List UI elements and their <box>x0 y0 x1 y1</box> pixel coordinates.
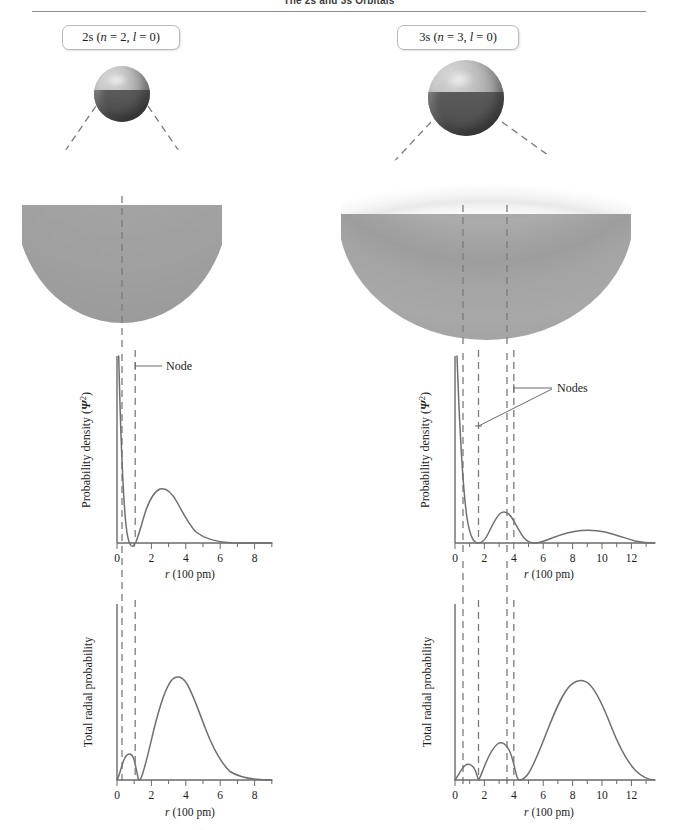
svg-text:8: 8 <box>570 789 576 801</box>
ylabel-radial-3s: Total radial probability <box>420 637 434 747</box>
plot-density-3s: Nodes 0 2 4 6 8 10 12 r (100 pm) Probabi… <box>389 350 669 580</box>
svg-text:0: 0 <box>452 789 458 801</box>
svg-text:6: 6 <box>217 552 223 564</box>
orbital-label-2s: 2s (n = 2, l = 0) <box>62 25 180 50</box>
xticks-radial-2s <box>117 780 272 786</box>
svg-text:8: 8 <box>570 552 576 564</box>
xticks-radial-3s <box>455 780 646 786</box>
xlabel-radial-3s: r (100 pm) <box>524 806 574 819</box>
plot-radial-2s: 0 2 4 6 8 r (100 pm) Total radial probab… <box>60 600 290 830</box>
xlabel-density-3s: r (100 pm) <box>524 568 574 581</box>
xticks-density-3s <box>455 543 646 549</box>
xlabel-radial-2s: r (100 pm) <box>165 806 215 819</box>
svg-text:2: 2 <box>149 552 155 564</box>
svg-text:0: 0 <box>114 552 120 564</box>
ylabel-density-3s: Probability density (Ψ2) <box>417 392 432 508</box>
svg-text:8: 8 <box>252 552 258 564</box>
svg-text:12: 12 <box>626 789 638 801</box>
curve-radial-3s <box>455 681 655 780</box>
column-2s: 2s (n = 2, l = 0) <box>0 0 339 830</box>
nodes-annotation-label-3s: Nodes <box>557 381 588 395</box>
svg-text:2: 2 <box>149 789 155 801</box>
svg-text:4: 4 <box>183 552 189 564</box>
plot-radial-3s: 0 2 4 6 8 10 12 r (100 pm) Total radial … <box>389 600 669 830</box>
node-annotation-label-2s: Node <box>166 359 192 373</box>
column-3s: 3s (n = 3, l = 0) <box>339 0 678 830</box>
svg-text:4: 4 <box>511 552 517 564</box>
svg-text:6: 6 <box>540 552 546 564</box>
curve-radial-2s <box>117 677 272 780</box>
svg-text:8: 8 <box>252 789 258 801</box>
svg-text:6: 6 <box>217 789 223 801</box>
svg-text:0: 0 <box>114 789 120 801</box>
orbital-label-3s: 3s (n = 3, l = 0) <box>397 25 519 50</box>
nodes-annotation-3s: Nodes <box>475 381 588 426</box>
figure-page: The 2s and 3s Orbitals 2s (n = 2, l = 0) <box>0 0 678 830</box>
svg-text:10: 10 <box>596 552 608 564</box>
ylabel-density-2s: Probability density (Ψ2) <box>78 392 93 508</box>
curve-density-2s <box>119 356 272 546</box>
svg-text:4: 4 <box>183 789 189 801</box>
plot-density-2s: Node 0 2 4 6 8 r (100 pm) Probability de… <box>60 350 290 580</box>
ylabel-radial-2s: Total radial probability <box>81 637 95 747</box>
xlabel-density-2s: r (100 pm) <box>165 568 215 581</box>
svg-text:12: 12 <box>626 552 638 564</box>
svg-text:4: 4 <box>511 789 517 801</box>
orbital-label-2s-text: 2s (n = 2, l = 0) <box>82 31 160 44</box>
orbital-label-3s-text: 3s (n = 3, l = 0) <box>419 31 497 44</box>
svg-text:10: 10 <box>596 789 608 801</box>
svg-text:6: 6 <box>540 789 546 801</box>
xticks-density-2s <box>117 543 272 549</box>
svg-text:2: 2 <box>482 789 488 801</box>
svg-text:0: 0 <box>452 552 458 564</box>
svg-text:2: 2 <box>482 552 488 564</box>
node-annotation-2s: Node <box>135 359 192 373</box>
curve-density-3s <box>457 356 655 543</box>
